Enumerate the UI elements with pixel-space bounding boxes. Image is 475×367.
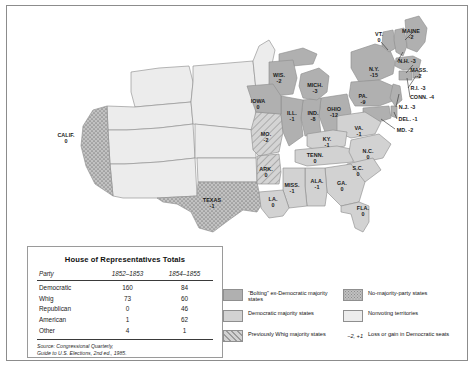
cell-c1852: 73 <box>99 292 156 303</box>
state-shape-arkansas <box>257 154 281 184</box>
legend-label: Democratic majority states <box>248 310 314 317</box>
source-line-2: Guide to U.S. Elections, 2nd ed., 1985. <box>37 350 213 356</box>
legend-label: Previously Whig majority states <box>248 330 326 337</box>
cell-party: Other <box>37 325 99 336</box>
legend-item: Democratic majority states <box>223 310 335 323</box>
legend-item: −2, +1Loss or gain in Democratic seats <box>343 330 455 343</box>
table-row: Whig7360 <box>37 292 213 303</box>
table-header-row: Party 1852–1853 1854–1855 <box>37 270 213 280</box>
legend-column-right: No-majority-party statesNonvoting territ… <box>343 289 455 351</box>
legend-swatch-no-majority <box>343 289 363 301</box>
figure-frame: VT.0MAINE-2N.H.-3MASS.-2R.I.-3CONN.-4N.Y… <box>6 5 468 361</box>
legend-label: Loss or gain in Democratic seats <box>368 330 449 337</box>
table-body: Democratic16084Whig7360Republican046Amer… <box>37 280 213 335</box>
legend-item: Previously Whig majority states <box>223 330 335 343</box>
house-totals-panel: House of Representatives Totals Party 18… <box>27 246 223 358</box>
legend-swatch-nonvoting <box>343 310 363 322</box>
cell-c1854: 46 <box>156 303 213 314</box>
legend-label: Nonvoting territories <box>368 310 418 317</box>
legend-item: “Bolting” ex-Democratic majority states <box>223 289 335 302</box>
house-totals-table: Party 1852–1853 1854–1855 Democratic1608… <box>37 270 213 335</box>
state-shape-missouri <box>251 112 283 156</box>
column-header-1854: 1854–1855 <box>156 270 213 280</box>
table-title: House of Representatives Totals <box>37 255 213 264</box>
map-legend: “Bolting” ex-Democratic majority statesD… <box>223 289 455 355</box>
source-citation: Source: Congressional Quarterly, Guide t… <box>37 339 213 356</box>
table-row: Democratic16084 <box>37 280 213 292</box>
cell-c1854: 62 <box>156 314 213 325</box>
territory-group <box>107 40 275 198</box>
cell-party: Republican <box>37 303 99 314</box>
legend-swatch-bolting <box>223 289 243 301</box>
cell-party: Democratic <box>37 280 99 292</box>
cell-c1854: 60 <box>156 292 213 303</box>
cell-c1854: 1 <box>156 325 213 336</box>
figure-root: VT.0MAINE-2N.H.-3MASS.-2R.I.-3CONN.-4N.Y… <box>0 0 475 367</box>
cell-party: American <box>37 314 99 325</box>
legend-item: No-majority-party states <box>343 289 455 302</box>
cell-c1852: 0 <box>99 303 156 314</box>
legend-swatch-whig <box>223 330 243 342</box>
legend-column-left: “Bolting” ex-Democratic majority statesD… <box>223 289 335 351</box>
column-header-party: Party <box>37 270 99 280</box>
table-row: Republican046 <box>37 303 213 314</box>
legend-swatch-democratic <box>223 310 243 322</box>
cell-c1852: 1 <box>99 314 156 325</box>
table-row: Other41 <box>37 325 213 336</box>
legend-seat-change-example: −2, +1 <box>343 330 363 339</box>
column-header-1852: 1852–1853 <box>99 270 156 280</box>
cell-c1852: 160 <box>99 280 156 292</box>
cell-c1852: 4 <box>99 325 156 336</box>
cell-c1854: 84 <box>156 280 213 292</box>
legend-item: Nonvoting territories <box>343 310 455 323</box>
legend-label: No-majority-party states <box>368 289 427 296</box>
cell-party: Whig <box>37 292 99 303</box>
legend-label: “Bolting” ex-Democratic majority states <box>248 289 335 302</box>
table-row: American162 <box>37 314 213 325</box>
